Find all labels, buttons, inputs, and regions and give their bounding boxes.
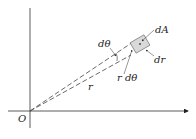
label-origin: O bbox=[18, 113, 26, 124]
label-r: r bbox=[88, 81, 94, 92]
lower-ray-dashed bbox=[30, 55, 131, 111]
label-d-theta: dθ bbox=[98, 38, 110, 49]
label-r-dtheta: r dθ bbox=[117, 72, 137, 83]
dr-leader bbox=[146, 50, 154, 56]
d-theta-leader bbox=[110, 48, 116, 56]
r-dtheta-leader bbox=[124, 50, 132, 74]
label-dA: dA bbox=[155, 24, 169, 35]
label-dr: dr bbox=[154, 54, 166, 65]
polar-area-element-diagram: dθ dA dr r dθ r O bbox=[0, 0, 196, 139]
d-theta-arc bbox=[116, 53, 117, 61]
